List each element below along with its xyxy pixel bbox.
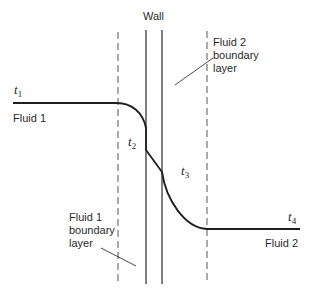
temperature-profile-curve xyxy=(13,103,300,229)
fluid1-label: Fluid 1 xyxy=(13,112,46,125)
fluid1-boundary-layer-label: Fluid 1 boundary layer xyxy=(69,211,115,250)
diagram-canvas xyxy=(0,0,310,293)
temperature-t3-label: t3 xyxy=(181,163,189,180)
temperature-t4-label: t4 xyxy=(288,209,296,226)
temperature-t1-label: t1 xyxy=(14,82,22,99)
wall-label: Wall xyxy=(143,10,164,23)
fluid2-label: Fluid 2 xyxy=(265,237,298,250)
temperature-t2-label: t2 xyxy=(128,134,136,151)
fluid2-boundary-layer-label: Fluid 2 boundary layer xyxy=(213,36,259,75)
